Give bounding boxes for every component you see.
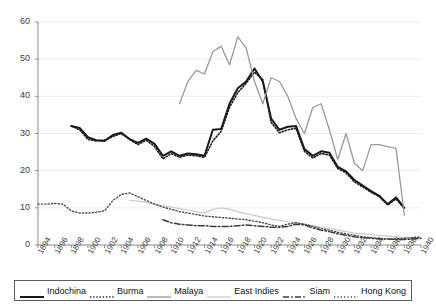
legend-label: East Indies <box>234 286 279 296</box>
y-tick-label: 30 <box>8 128 30 138</box>
legend-label: Malaya <box>174 286 203 296</box>
legend-item-east-indies[interactable]: East Indies <box>207 286 279 296</box>
legend-swatch-icon <box>334 287 358 295</box>
legend-label: Indochina <box>47 286 86 296</box>
y-tick-label: 20 <box>8 165 30 175</box>
chart-legend: IndochinaBurmaMalayaEast IndiesSiamHong … <box>14 280 412 301</box>
legend-swatch-icon <box>207 287 231 295</box>
y-tick-label: 0 <box>8 239 30 249</box>
legend-label: Siam <box>310 286 331 296</box>
legend-item-siam[interactable]: Siam <box>283 286 331 296</box>
series-line-east-indies <box>130 200 421 237</box>
y-tick-label: 10 <box>8 202 30 212</box>
y-tick-label: 60 <box>8 16 30 26</box>
legend-item-hong-kong[interactable]: Hong Kong <box>334 286 406 296</box>
legend-swatch-icon <box>20 287 44 295</box>
legend-item-burma[interactable]: Burma <box>90 286 144 296</box>
legend-swatch-icon <box>90 287 114 295</box>
y-tick-label: 50 <box>8 53 30 63</box>
legend-label: Burma <box>117 286 144 296</box>
legend-label: Hong Kong <box>361 286 406 296</box>
series-line-indochina <box>71 68 404 207</box>
legend-swatch-icon <box>147 287 171 295</box>
y-tick-label: 40 <box>8 90 30 100</box>
series-line-hong-kong <box>38 193 421 239</box>
legend-swatch-icon <box>283 287 307 295</box>
series-line-burma <box>71 72 404 208</box>
legend-item-malaya[interactable]: Malaya <box>147 286 203 296</box>
legend-item-indochina[interactable]: Indochina <box>20 286 86 296</box>
